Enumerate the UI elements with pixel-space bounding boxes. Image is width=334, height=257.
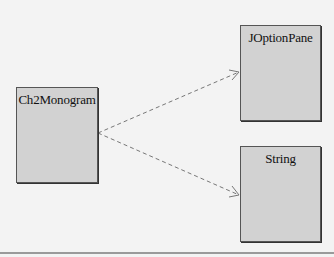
class-box-string[interactable]: String xyxy=(240,146,321,242)
class-name-string: String xyxy=(241,151,320,167)
class-name-joptionpane: JOptionPane xyxy=(241,30,320,46)
class-box-joptionpane[interactable]: JOptionPane xyxy=(240,25,321,121)
dependency-arrow-string xyxy=(98,133,239,197)
bottom-divider xyxy=(0,252,334,254)
diagram-canvas: Ch2Monogram JOptionPane String xyxy=(0,0,334,257)
dependency-arrow-joptionpane xyxy=(98,70,239,133)
class-box-ch2monogram[interactable]: Ch2Monogram xyxy=(16,87,98,183)
class-name-ch2monogram: Ch2Monogram xyxy=(17,92,97,108)
